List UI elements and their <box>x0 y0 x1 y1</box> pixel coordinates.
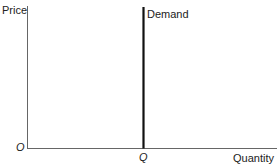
y-axis-label: Price <box>2 4 27 16</box>
x-axis-label: Quantity <box>233 152 274 164</box>
chart-canvas <box>0 0 277 165</box>
q-tick-label: Q <box>139 151 148 163</box>
demand-label: Demand <box>147 8 189 20</box>
origin-label: O <box>16 141 25 153</box>
